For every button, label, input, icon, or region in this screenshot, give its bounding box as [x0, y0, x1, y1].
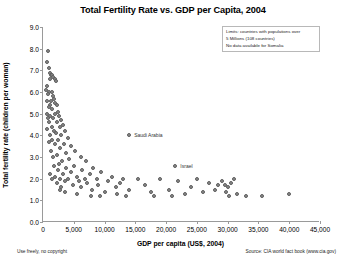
footer-left-text: Use freely, no copyright [17, 249, 67, 254]
y-axis-tick-mark [40, 135, 43, 136]
y-axis-tick-mark [40, 49, 43, 50]
data-point [90, 188, 94, 192]
data-point [183, 192, 187, 196]
data-point [48, 172, 52, 176]
data-point [56, 138, 60, 142]
data-point [55, 153, 59, 157]
footer-right-text: Source: CIA world fact book (www.cia.gov… [246, 249, 336, 254]
x-axis-tick-label: 45,000 [310, 226, 330, 233]
data-point [58, 125, 62, 129]
y-axis-tick-label: 3.0 [30, 154, 39, 161]
data-point [244, 194, 248, 198]
data-point [54, 79, 58, 83]
data-point [99, 170, 103, 174]
y-axis-tick-mark [40, 200, 43, 201]
x-axis-title: GDP per capita (US$, 2004) [42, 240, 319, 247]
data-point [64, 166, 68, 170]
data-point [45, 60, 49, 64]
y-axis-tick-label: 5.0 [30, 110, 39, 117]
data-point [69, 144, 73, 148]
x-axis-tick-label: 35,000 [248, 226, 268, 233]
data-point [47, 120, 51, 124]
data-point [152, 194, 156, 198]
x-axis-tick-label: 40,000 [279, 226, 299, 233]
data-point [59, 118, 63, 122]
data-point [226, 185, 230, 189]
data-point [189, 185, 193, 189]
data-point [287, 192, 291, 196]
data-point [56, 168, 60, 172]
data-point [63, 129, 67, 133]
data-point [61, 172, 65, 176]
chart-note-line: No data available for Somalia [226, 43, 317, 50]
y-axis-tick-label: 1.0 [30, 197, 39, 204]
data-point [51, 155, 55, 159]
data-point [91, 166, 95, 170]
data-point [47, 140, 51, 144]
x-axis-tick-mark [135, 221, 136, 224]
data-point [143, 183, 147, 187]
data-point [121, 177, 125, 181]
data-point [124, 194, 128, 198]
data-point-label: Saudi Arabia [134, 132, 162, 138]
x-axis-tick-label: 5,000 [66, 226, 83, 233]
x-axis-tick-label: 20,000 [156, 226, 176, 233]
data-point [67, 157, 71, 161]
data-point [106, 179, 110, 183]
data-point [71, 183, 75, 187]
x-axis-tick-mark [289, 221, 290, 224]
data-point [80, 168, 84, 172]
y-axis-tick-label: 7.0 [30, 67, 39, 74]
y-axis-tick-label: 4.0 [30, 132, 39, 139]
data-point [77, 179, 81, 183]
data-point [48, 77, 52, 81]
x-axis-tick-mark [197, 221, 198, 224]
data-point [229, 181, 233, 185]
data-point [66, 136, 70, 140]
data-point [57, 162, 61, 166]
data-point [73, 149, 77, 153]
data-point [232, 177, 236, 181]
chart-note-box: Limits: countries with populations over5… [222, 26, 320, 52]
data-point [195, 177, 199, 181]
data-point [46, 49, 50, 53]
x-axis-tick-mark [228, 221, 229, 224]
data-point [49, 149, 53, 153]
data-point [53, 142, 57, 146]
data-point [98, 194, 102, 198]
data-point [110, 175, 114, 179]
data-point [103, 190, 107, 194]
data-point [58, 146, 62, 150]
x-axis-tick-label: 25,000 [187, 226, 207, 233]
chart-title: Total Fertility Rate vs. GDP per Capita,… [0, 5, 346, 15]
data-point [85, 181, 89, 185]
data-point [158, 177, 162, 181]
data-point [45, 84, 49, 88]
y-axis-tick-mark [40, 157, 43, 158]
y-axis-tick-label: 0.0 [30, 219, 39, 226]
data-point [227, 194, 231, 198]
data-point [89, 194, 93, 198]
chart-note-line: 5 Millions (108 countries) [226, 36, 317, 43]
x-axis-tick-label: 30,000 [218, 226, 238, 233]
x-axis-tick-mark [74, 221, 75, 224]
data-point [216, 183, 220, 187]
y-axis-tick-mark [40, 92, 43, 93]
data-point [62, 142, 66, 146]
y-axis-tick-mark [40, 222, 43, 223]
data-point [45, 127, 49, 131]
x-axis-tick-mark [105, 221, 106, 224]
data-point [213, 188, 217, 192]
y-axis-tick-label: 2.0 [30, 175, 39, 182]
data-point [88, 172, 92, 176]
x-axis-tick-label: 0 [41, 226, 45, 233]
data-point [170, 194, 174, 198]
data-point [50, 107, 54, 111]
data-point [55, 181, 59, 185]
y-axis-tick-label: 6.0 [30, 89, 39, 96]
data-point [220, 179, 224, 183]
data-point [207, 181, 211, 185]
data-point [54, 131, 58, 135]
data-point [46, 92, 50, 96]
data-point [47, 66, 51, 70]
